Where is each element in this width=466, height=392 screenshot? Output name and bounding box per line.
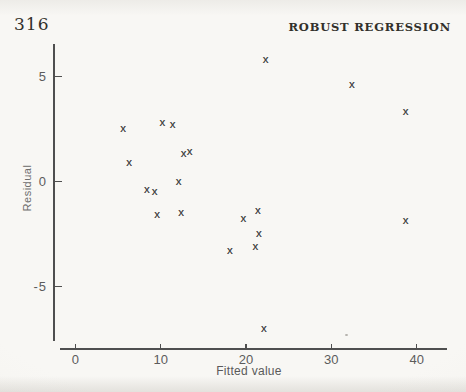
x-axis-line [60,348,447,350]
scatter-point-marker: x [187,146,193,157]
scatter-point-marker: x [170,119,176,130]
scatter-point-marker: x [263,54,269,65]
y-axis-tick [55,181,62,183]
residual-scatter-plot: Residual Fitted value 01020304050-5 xxxx… [0,0,466,392]
scatter-point-marker: x [178,207,184,218]
x-axis-tick-label: 30 [316,353,346,367]
scatter-point-marker: x [349,79,355,90]
scatter-point-marker: x [255,205,261,216]
y-axis-tick [55,76,62,78]
print-artifact [345,334,348,336]
scatter-point-marker: x [144,184,150,195]
scatter-point-marker: x [241,214,247,225]
scatter-point-marker: x [253,241,259,252]
x-axis-tick [331,344,333,350]
scatter-point-marker: x [154,209,160,220]
scatter-point-marker: x [152,186,158,197]
x-axis-tick [416,344,418,350]
scatter-point-marker: x [181,148,187,159]
y-axis-tick-label: -5 [14,279,47,295]
y-axis-tick-label: 5 [14,69,47,85]
x-axis-tick-label: 40 [402,353,432,367]
x-axis-tick-label: 0 [60,353,90,367]
scatter-point-marker: x [120,123,126,134]
x-axis-tick [245,344,247,350]
x-axis-tick-label: 10 [146,353,176,367]
scatter-point-marker: x [159,117,165,128]
x-axis-tick [160,344,162,350]
x-axis-tick-label: 20 [231,353,261,367]
scatter-point-marker: x [261,323,267,334]
y-axis-tick-label: 0 [14,174,47,190]
scatter-point-marker: x [227,245,233,256]
y-axis-line [53,44,55,341]
scatter-point-marker: x [256,228,262,239]
scatter-point-marker: x [403,216,409,227]
y-axis-tick [55,286,62,288]
book-page: 316 ROBUST REGRESSION Residual Fitted va… [0,0,466,392]
scatter-point-marker: x [176,176,182,187]
scatter-point-marker: x [403,106,409,117]
scatter-point-marker: x [126,157,132,168]
x-axis-tick [75,344,77,350]
